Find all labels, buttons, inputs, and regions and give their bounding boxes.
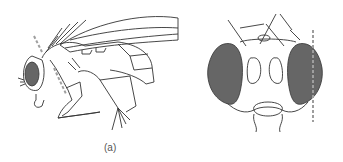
panel-a-lateral-fly: (a) [0, 0, 180, 162]
left-compound-eye [208, 43, 243, 104]
right-compound-eye [288, 43, 323, 104]
dashed-marker-top [34, 36, 42, 52]
panel-b-frontal-head: (b) [180, 0, 343, 162]
panel-a-caption: (a) [104, 142, 116, 153]
fly-lateral-illustration [0, 0, 180, 162]
compound-eye [25, 62, 39, 86]
dashed-marker-bottom [54, 68, 66, 94]
fly-head-frontal-illustration [180, 0, 343, 162]
